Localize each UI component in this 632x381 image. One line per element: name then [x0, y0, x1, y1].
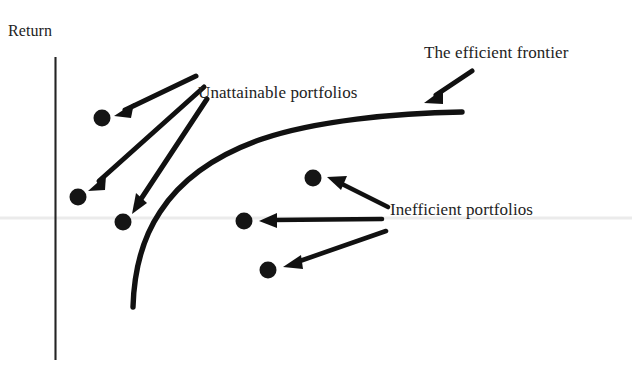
arrow-efficient-frontier [424, 71, 472, 104]
annotation-unattainable-portfolios: Unattainable portfolios [198, 84, 358, 101]
portfolio-dot [94, 110, 111, 127]
portfolio-dot [260, 262, 277, 279]
arrow-inefficient-3 [283, 231, 386, 269]
portfolio-dot [305, 170, 322, 187]
efficient-frontier-figure: Return Unattainable portfolios The effic… [0, 0, 632, 381]
portfolio-dot [236, 213, 253, 230]
y-axis-label: Return [8, 23, 52, 39]
annotation-efficient-frontier: The efficient frontier [424, 44, 568, 61]
unattainable-portfolio-points [70, 110, 132, 231]
annotation-inefficient-portfolios: Inefficient portfolios [390, 201, 533, 218]
portfolio-dot [115, 214, 132, 231]
arrow-unattainable-1 [114, 76, 196, 118]
arrow-inefficient-1 [327, 176, 388, 207]
portfolio-dot [70, 189, 87, 206]
arrow-inefficient-2 [259, 213, 382, 228]
inefficient-portfolio-points [236, 170, 322, 279]
